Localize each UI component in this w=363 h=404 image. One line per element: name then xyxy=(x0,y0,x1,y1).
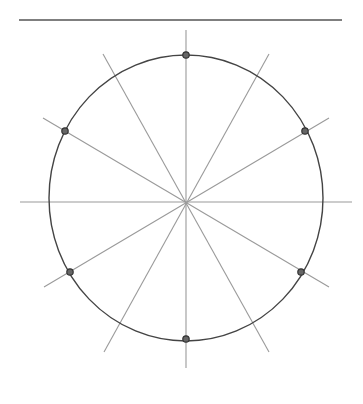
circle-point xyxy=(302,128,308,134)
spokes-group xyxy=(20,30,352,368)
circle-point xyxy=(183,336,189,342)
circle-spoke-diagram xyxy=(0,0,363,404)
circle-point xyxy=(183,52,189,58)
points-group xyxy=(62,52,308,342)
circle-point xyxy=(67,269,73,275)
circle-point xyxy=(298,269,304,275)
circle-point xyxy=(62,128,68,134)
